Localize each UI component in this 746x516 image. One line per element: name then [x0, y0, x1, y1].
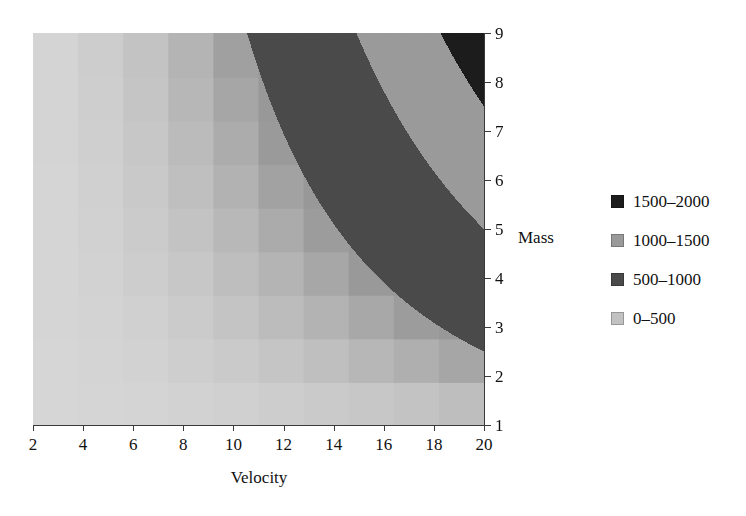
- legend-swatch-icon: [611, 312, 624, 325]
- legend-label: 1500–2000: [633, 193, 710, 210]
- y-tick-label: 7: [495, 123, 504, 140]
- y-tick-label: 2: [495, 368, 504, 385]
- x-axis-title: Velocity: [33, 468, 485, 488]
- x-tick-mark: [484, 426, 485, 431]
- x-axis-line: [33, 425, 485, 426]
- contour-band-layer: [33, 33, 484, 425]
- x-tick-mark: [133, 426, 134, 431]
- y-axis-title: Mass: [518, 228, 554, 248]
- y-tick-mark: [485, 278, 491, 279]
- legend-item: 500–1000: [611, 270, 710, 288]
- contour-plot-area: [33, 33, 484, 425]
- legend-swatch-icon: [611, 234, 624, 247]
- x-tick-mark: [33, 426, 34, 431]
- y-tick-mark: [485, 425, 491, 426]
- x-tick-label: 4: [79, 436, 88, 453]
- x-tick-label: 2: [29, 436, 38, 453]
- y-tick-mark: [485, 131, 491, 132]
- y-tick-label: 6: [495, 172, 504, 189]
- y-tick-label: 3: [495, 319, 504, 336]
- legend-label: 1000–1500: [633, 232, 710, 249]
- legend-item: 0–500: [611, 309, 710, 327]
- x-tick-label: 8: [179, 436, 188, 453]
- x-tick-mark: [183, 426, 184, 431]
- x-tick-label: 6: [129, 436, 138, 453]
- x-tick-mark: [284, 426, 285, 431]
- y-tick-label: 4: [495, 270, 504, 287]
- x-tick-label: 14: [325, 436, 342, 453]
- x-tick-mark: [384, 426, 385, 431]
- y-tick-label: 9: [495, 25, 504, 42]
- y-tick-label: 8: [495, 74, 504, 91]
- legend-swatch-icon: [611, 195, 624, 208]
- x-tick-mark: [434, 426, 435, 431]
- legend-item: 1000–1500: [611, 231, 710, 249]
- chart-legend: 1500–20001000–1500500–10000–500: [611, 192, 710, 327]
- y-tick-mark: [485, 229, 491, 230]
- x-tick-mark: [334, 426, 335, 431]
- y-tick-label: 1: [495, 417, 504, 434]
- y-tick-label: 5: [495, 221, 504, 238]
- y-tick-mark: [485, 33, 491, 34]
- legend-label: 500–1000: [633, 271, 701, 288]
- chart-figure: 2468101214161820 123456789 Velocity Mass…: [0, 0, 746, 516]
- y-tick-mark: [485, 180, 491, 181]
- x-tick-label: 18: [425, 436, 442, 453]
- legend-item: 1500–2000: [611, 192, 710, 210]
- x-tick-label: 20: [476, 436, 493, 453]
- x-tick-mark: [233, 426, 234, 431]
- y-tick-mark: [485, 376, 491, 377]
- x-tick-label: 16: [375, 436, 392, 453]
- legend-swatch-icon: [611, 273, 624, 286]
- x-tick-label: 10: [225, 436, 242, 453]
- y-tick-mark: [485, 82, 491, 83]
- x-tick-mark: [83, 426, 84, 431]
- legend-label: 0–500: [633, 310, 676, 327]
- y-tick-mark: [485, 327, 491, 328]
- x-tick-label: 12: [275, 436, 292, 453]
